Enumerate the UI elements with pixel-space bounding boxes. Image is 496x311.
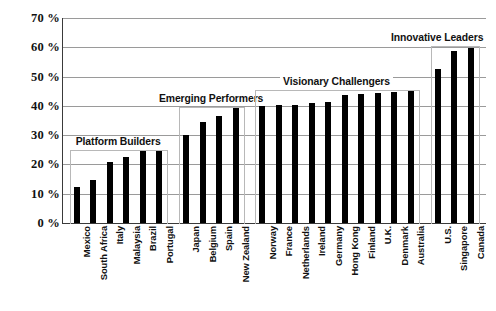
x-label-belgium: Belgium <box>207 226 218 262</box>
x-label-brazil: Brazil <box>147 226 158 251</box>
x-label-norway: Norway <box>267 226 278 259</box>
bracket-emerging-performers <box>179 107 244 224</box>
x-label-australia: Australia <box>415 226 426 265</box>
x-label-ireland: Ireland <box>316 226 327 256</box>
x-label-singapore: Singapore <box>458 226 469 271</box>
x-label-u-s-: U.S. <box>442 226 453 244</box>
plot-area: Platform BuildersEmerging PerformersVisi… <box>62 18 486 223</box>
x-axis-category-labels: MexicoSouth AfricaItalyMalaysiaBrazilPor… <box>62 226 486 311</box>
y-tick-label-20: 20 % <box>31 157 60 172</box>
x-label-new-zealand: New Zealand <box>240 226 251 282</box>
group-label-innovative-leaders: Innovative Leaders <box>388 32 486 43</box>
x-label-canada: Canada <box>475 226 486 259</box>
y-tick-label-60: 60 % <box>31 40 60 55</box>
y-tick-label-0: 0 % <box>38 216 60 231</box>
y-tick-label-30: 30 % <box>31 128 60 143</box>
x-label-netherlands: Netherlands <box>300 226 311 279</box>
y-tick-label-70: 70 % <box>31 11 60 26</box>
bar-chart: 0 %10 %20 %30 %40 %50 %60 %70 % Platform… <box>0 0 496 311</box>
x-label-finland: Finland <box>366 226 377 259</box>
x-label-italy: Italy <box>114 226 125 244</box>
x-label-mexico: Mexico <box>81 226 92 257</box>
y-tick-label-10: 10 % <box>31 186 60 201</box>
group-label-emerging-performers: Emerging Performers <box>156 93 266 104</box>
bracket-platform-builders <box>70 150 168 224</box>
bracket-innovative-leaders <box>431 46 480 224</box>
bracket-visionary-challengers <box>255 90 419 224</box>
x-label-japan: Japan <box>190 226 201 253</box>
x-label-hong-kong: Hong Kong <box>349 226 360 276</box>
x-label-france: France <box>283 226 294 256</box>
x-label-denmark: Denmark <box>399 226 410 265</box>
x-label-spain: Spain <box>223 226 234 251</box>
group-label-visionary-challengers: Visionary Challengers <box>280 76 393 87</box>
x-label-germany: Germany <box>333 226 344 266</box>
x-label-malaysia: Malaysia <box>131 226 142 264</box>
y-tick-label-40: 40 % <box>31 98 60 113</box>
x-label-portugal: Portugal <box>164 226 175 263</box>
x-label-south-africa: South Africa <box>98 226 109 280</box>
x-label-u-k-: U.K. <box>382 226 393 244</box>
y-tick-label-50: 50 % <box>31 69 60 84</box>
group-label-platform-builders: Platform Builders <box>73 136 164 147</box>
